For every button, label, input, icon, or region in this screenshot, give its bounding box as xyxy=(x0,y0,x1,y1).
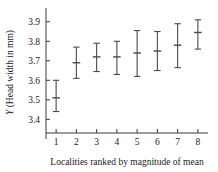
y-tick-label: 3.9 xyxy=(28,17,40,27)
y-tick-label: 3.4 xyxy=(28,115,40,125)
x-tick-label: 3 xyxy=(94,137,99,147)
x-tick-label: 1 xyxy=(54,137,59,147)
x-axis-title: Localities ranked by magnitude of mean xyxy=(50,157,204,167)
x-tick-label: 4 xyxy=(115,137,120,147)
error-bar-chart: 3.43.53.63.73.83.9 12345678 Y (Head widt… xyxy=(0,0,218,172)
x-tick-label: 8 xyxy=(196,137,201,147)
x-tick-label: 5 xyxy=(135,137,140,147)
x-tick-label: 7 xyxy=(175,137,180,147)
chart-figure: 3.43.53.63.73.83.9 12345678 Y (Head widt… xyxy=(0,0,218,172)
y-tick-label: 3.8 xyxy=(28,37,40,47)
y-tick-label: 3.7 xyxy=(28,56,40,66)
y-tick-label: 3.5 xyxy=(28,95,40,105)
y-axis-title: Y (Head width in mm) xyxy=(5,30,16,115)
y-axis-title-units: (Head width in mm) xyxy=(5,30,16,110)
y-tick-label: 3.6 xyxy=(28,76,40,86)
x-tick-label: 6 xyxy=(155,137,160,147)
x-tick-label: 2 xyxy=(74,137,79,147)
